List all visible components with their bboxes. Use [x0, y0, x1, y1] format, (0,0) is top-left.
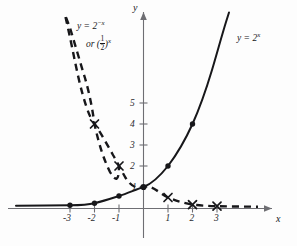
curve-label-decay: y = 2−x	[77, 20, 104, 32]
data-point	[140, 184, 146, 190]
data-point	[165, 163, 170, 168]
decay-data-points	[91, 120, 222, 210]
decay-alt-prefix: or (	[86, 39, 100, 49]
y-tick-label-3: 3	[130, 141, 135, 151]
data-point-x	[164, 194, 172, 202]
y-tick-label-2: 2	[130, 162, 135, 172]
growth-label-base: y = 2	[237, 33, 257, 43]
decay-label-base: y = 2	[77, 21, 97, 31]
data-point	[116, 193, 121, 198]
y-axis-name: y	[133, 3, 137, 13]
data-point	[67, 203, 72, 208]
curve-growth	[16, 13, 229, 206]
curve-label-growth: y = 2x	[237, 32, 260, 44]
y-tick-label-1: 1	[132, 183, 137, 193]
x-tick-label-1: 1	[166, 214, 171, 224]
x-tick-label-neg3: -3	[63, 214, 71, 224]
x-tick-label-3: 3	[214, 214, 219, 224]
y-axis	[140, 12, 147, 238]
x-tick-label-neg2: -2	[88, 214, 96, 224]
data-point	[92, 201, 97, 206]
exponential-functions-figure: 5 4 3 2 1 -3 -2 -1 1 2 3 y x y = 2−x or …	[0, 0, 297, 246]
decay-alt-prefix-text: or (	[86, 39, 100, 49]
x-axis-arrowhead	[264, 205, 272, 212]
growth-label-exponent: x	[257, 31, 260, 38]
x-axis-name: x	[276, 214, 280, 224]
y-tick-label-5: 5	[130, 99, 135, 109]
decay-label-exponent: −x	[97, 19, 104, 26]
x-tick-label-2: 2	[190, 214, 195, 224]
y-tick-label-4: 4	[130, 120, 135, 130]
curve-label-decay-alt: or (12)x	[86, 35, 111, 52]
y-axis-arrowhead	[140, 12, 147, 20]
x-tick-label-neg1: -1	[112, 214, 120, 224]
decay-alt-exponent: x	[108, 37, 111, 44]
data-point	[190, 121, 195, 126]
